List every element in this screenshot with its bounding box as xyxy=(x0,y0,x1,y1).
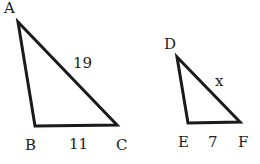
side-label-df: x xyxy=(215,72,224,90)
vertex-label-d: D xyxy=(164,35,176,53)
vertex-label-f: F xyxy=(238,133,248,151)
similar-triangles-diagram: A B C 19 11 D E F x 7 xyxy=(0,0,260,164)
side-label-ac: 19 xyxy=(73,54,92,72)
side-label-ef: 7 xyxy=(208,133,218,151)
vertex-label-e: E xyxy=(178,133,189,151)
side-label-bc: 11 xyxy=(69,135,88,153)
triangle-abc xyxy=(18,22,117,126)
vertex-label-a: A xyxy=(3,0,15,17)
vertex-label-b: B xyxy=(25,136,36,154)
vertex-label-c: C xyxy=(116,136,127,154)
triangle-def xyxy=(177,57,240,123)
